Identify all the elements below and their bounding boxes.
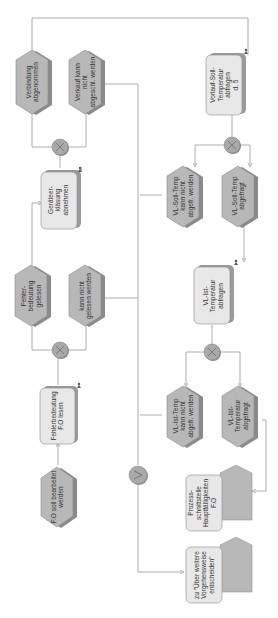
connector-e2-or — [100, 84, 138, 465]
event-label-e5: F.O soll bearbeitet werden — [49, 467, 65, 527]
connector-g2-e3 — [32, 323, 52, 350]
event-label-e4: kann nicht gelesen werden — [77, 266, 93, 326]
connector-g4-e9 — [220, 352, 240, 385]
gateway-or-g5[interactable] — [129, 466, 148, 485]
function-label-f2: Fehlerbedeutung F.O lesen — [49, 388, 65, 444]
function-label-f3: Vorlauf-Soll- Temperatur abfragen d. 5 — [209, 55, 239, 115]
connector-or-p2 — [138, 485, 182, 572]
connector-g3-e7 — [240, 145, 250, 165]
event-label-e8: VL-Ist-Temp kann nicht abgefr. werden — [171, 386, 195, 446]
function-label-f4: VL-Ist- Temperatur abfragen — [201, 268, 225, 325]
process-path-label-p2: zu "Über weitere Vorgehensweise entschei… — [192, 547, 216, 603]
event-label-e1: Verbindung abgenommen — [24, 50, 40, 114]
connector-g3-e6 — [195, 145, 224, 165]
event-label-e2: Verkauf kann nicht abgeschl. werden — [73, 50, 97, 114]
connector-g1-e1 — [32, 112, 52, 147]
person-icon — [77, 383, 81, 388]
connector-g4-e8 — [186, 352, 204, 385]
event-label-e7: VL-Soll-Temp abgefragt — [230, 166, 246, 226]
gateway-xor-g3[interactable] — [224, 137, 241, 154]
gateway-xor-g2[interactable] — [52, 342, 69, 359]
event-label-e3: Fehler- bedeutung gelesen — [19, 266, 43, 326]
person-icon — [244, 49, 248, 54]
person-icon — [234, 260, 238, 265]
function-label-f1: Geräteer- kläsung abnehmen — [46, 172, 70, 229]
connector-g1-e2 — [68, 112, 86, 147]
connector-e3-f1 — [32, 203, 40, 265]
process-path-label-p1: Prozess- schnittstelle Hauptfälligkeiten… — [187, 475, 217, 531]
event-label-e9: VL-Ist- Temperatur abgefragt — [226, 386, 250, 446]
gateway-xor-g4[interactable] — [204, 344, 221, 361]
connector-e1-f3 — [32, 18, 248, 55]
event-label-e6: VL-Soll-Temp kann nicht abgefr. werden — [171, 166, 195, 226]
gateway-xor-g1[interactable] — [52, 139, 69, 156]
connector-g2-e4 — [68, 323, 86, 350]
